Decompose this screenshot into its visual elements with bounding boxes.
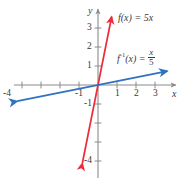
x-tick-label-2: 2: [134, 89, 139, 99]
y-axis-name: y: [88, 6, 92, 16]
curve-label-f-rest: (x) = 5x: [121, 12, 153, 23]
curve-label-f: f(x) = 5x: [118, 13, 153, 23]
x-tick-label-1: 1: [115, 89, 120, 99]
curve-label-finv-middle: (x) =: [125, 53, 148, 64]
curve-f-inverse: [17, 71, 167, 101]
y-tick-label-2: 2: [87, 42, 92, 52]
curve-label-f-inverse: f-1(x) = x 5: [117, 48, 155, 68]
curve-label-finv-fraction: x 5: [148, 48, 155, 68]
inverse-function-graph-figure: -4 -1 1 2 3 3 2 1 -1 -4 x y f(x) = 5x f-…: [0, 0, 185, 186]
x-axis-name: x: [172, 89, 176, 99]
y-tick-label-1: 1: [87, 61, 92, 71]
curve-label-finv-denominator: 5: [148, 58, 155, 67]
x-tick-label--4: -4: [3, 89, 11, 99]
x-tick-label-3: 3: [153, 89, 158, 99]
y-tick-label-3: 3: [87, 23, 92, 33]
x-tick-label--1: -1: [75, 89, 83, 99]
curve-f: [82, 17, 111, 164]
y-tick-label--4: -4: [84, 156, 92, 166]
y-tick-label--1: -1: [84, 99, 92, 109]
